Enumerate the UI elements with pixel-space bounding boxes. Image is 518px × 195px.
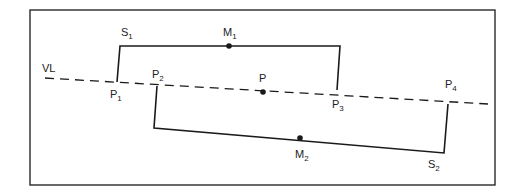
point-p4-label: P4 [445,78,457,93]
midpoint-m1-dot [226,43,232,49]
view-line-label: VL [42,62,55,74]
point-p1-label: P1 [110,88,122,103]
segment-s2 [154,86,448,153]
diagram-frame [30,10,495,185]
midpoint-m2-dot [297,135,303,141]
midpoint-m2-label: M2 [295,148,309,163]
point-p3-label: P3 [332,98,344,113]
point-p2-label: P2 [152,68,164,83]
center-point-label: P [259,72,266,84]
segment-s1-label: S1 [121,26,133,41]
midpoint-m1-label: M1 [223,26,237,41]
center-point-dot [260,89,266,95]
segment-s1 [117,46,340,90]
diagram-canvas: VL S1 M1 P1 P2 P P3 P4 M2 S2 [0,0,518,195]
segment-s2-label: S2 [428,158,440,173]
